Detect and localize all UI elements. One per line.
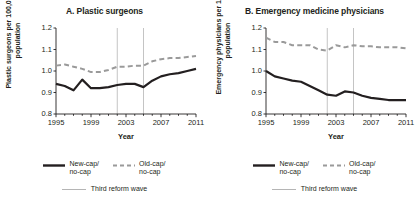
legend-old-cap-line1: Old-cap/ bbox=[349, 160, 375, 167]
series-line-old-cap-no-cap bbox=[266, 38, 406, 51]
x-tick-label: 2011 bbox=[398, 119, 414, 127]
legend-item-new-cap: New-cap/ no-cap bbox=[43, 160, 99, 176]
x-tick-label: 1995 bbox=[48, 119, 65, 127]
x-tick-label: 1999 bbox=[83, 119, 100, 127]
x-tick-label: 2003 bbox=[118, 119, 135, 127]
panel-b-svg bbox=[266, 28, 406, 114]
y-tick-label: 1.2 bbox=[252, 24, 262, 32]
legend-old-cap-line1: Old-cap/ bbox=[139, 160, 165, 167]
series-line-old-cap-no-cap bbox=[56, 56, 196, 72]
panel-a-legend: New-cap/ no-cap Old-cap/ no-cap bbox=[0, 160, 209, 193]
legend-item-new-cap: New-cap/ no-cap bbox=[253, 160, 309, 176]
y-tick-label: 1.2 bbox=[42, 24, 52, 32]
legend-old-cap-line2: no-cap bbox=[139, 168, 160, 175]
series-line-new-cap-no-cap bbox=[56, 69, 196, 91]
dashed-line-swatch-icon bbox=[323, 163, 345, 168]
x-tick-label: 2003 bbox=[328, 119, 345, 127]
x-tick-label: 2011 bbox=[188, 119, 204, 127]
legend-item-old-cap: Old-cap/ no-cap bbox=[323, 160, 375, 176]
y-tick-label: 0.8 bbox=[252, 110, 262, 118]
legend-item-old-cap: Old-cap/ no-cap bbox=[113, 160, 165, 176]
legend-new-cap-line1: New-cap/ bbox=[69, 160, 99, 167]
y-tick-label: 1.1 bbox=[42, 46, 52, 54]
third-reform-line-swatch-icon bbox=[272, 187, 296, 192]
x-tick-label: 1995 bbox=[258, 119, 275, 127]
solid-line-swatch-icon bbox=[43, 163, 65, 168]
legend-new-cap-line2: no-cap bbox=[279, 168, 300, 175]
y-tick-label: 0.9 bbox=[42, 89, 52, 97]
y-tick-label: 1.1 bbox=[252, 46, 262, 54]
legend-new-cap-line2: no-cap bbox=[69, 168, 90, 175]
legend-label-new-cap: New-cap/ no-cap bbox=[69, 160, 99, 176]
panel-a-y-axis-label: Plastic surgeons per 100,000 population bbox=[5, 0, 22, 96]
legend-new-cap-line1: New-cap/ bbox=[279, 160, 309, 167]
legend-label-old-cap: Old-cap/ no-cap bbox=[139, 160, 165, 176]
legend-old-cap-line2: no-cap bbox=[349, 168, 370, 175]
panel-b-plot-area: Year 0.80.91.01.11.219951999200320072011 bbox=[266, 28, 406, 114]
third-reform-line-swatch-icon bbox=[62, 187, 86, 192]
panel-b-x-axis-label: Year bbox=[266, 132, 406, 141]
panel-a-title: A. Plastic surgeons bbox=[0, 6, 209, 16]
legend-label-new-cap: New-cap/ no-cap bbox=[279, 160, 309, 176]
series-line-new-cap-no-cap bbox=[266, 71, 406, 100]
legend-label-old-cap: Old-cap/ no-cap bbox=[349, 160, 375, 176]
x-tick-label: 2007 bbox=[363, 119, 380, 127]
legend-label-third-reform: Third reform wave bbox=[91, 185, 147, 193]
panel-plastic-surgeons: A. Plastic surgeons Plastic surgeons per… bbox=[0, 0, 209, 213]
figure-root: A. Plastic surgeons Plastic surgeons per… bbox=[0, 0, 419, 213]
x-tick-label: 2007 bbox=[153, 119, 170, 127]
panel-emergency-medicine: B. Emergency medicine physicians Emergen… bbox=[210, 0, 419, 213]
x-tick-label: 1999 bbox=[293, 119, 310, 127]
y-tick-label: 1.0 bbox=[252, 67, 262, 75]
panel-a-x-axis-label: Year bbox=[56, 132, 196, 141]
y-tick-label: 0.8 bbox=[42, 110, 52, 118]
dashed-line-swatch-icon bbox=[113, 163, 135, 168]
y-tick-label: 1.0 bbox=[42, 67, 52, 75]
panel-b-legend: New-cap/ no-cap Old-cap/ no-cap bbox=[210, 160, 419, 193]
panel-b-y-axis-label: Emergency physicians per 1,000 populatio… bbox=[215, 0, 232, 96]
y-tick-label: 0.9 bbox=[252, 89, 262, 97]
legend-label-third-reform: Third reform wave bbox=[301, 185, 357, 193]
panel-b-title: B. Emergency medicine physicians bbox=[210, 6, 419, 16]
panel-a-svg bbox=[56, 28, 196, 114]
solid-line-swatch-icon bbox=[253, 163, 275, 168]
panel-a-plot-area: Year 0.80.91.01.11.219951999200320072011 bbox=[56, 28, 196, 114]
